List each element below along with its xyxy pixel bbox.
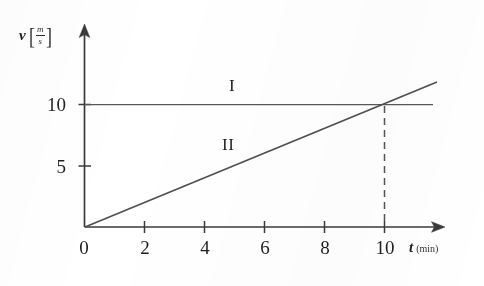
x-axis-unit: (min) xyxy=(416,244,438,254)
x-tick-label-0: 0 xyxy=(70,238,98,257)
unit-fraction: m s xyxy=(36,25,45,46)
unit-numerator: m xyxy=(37,25,44,35)
x-tick-label-2: 2 xyxy=(131,238,159,257)
x-tick-label-10: 10 xyxy=(369,238,401,257)
y-tick-label-5: 5 xyxy=(32,157,66,176)
y-axis-unit: [ m s ] xyxy=(28,25,53,46)
unit-denominator: s xyxy=(38,36,42,46)
bracket-close: ] xyxy=(46,27,52,45)
x-tick-label-6: 6 xyxy=(251,238,279,257)
x-axis-variable: t xyxy=(409,240,413,255)
velocity-time-graph-figure: v [ m s ] t (min) 10 5 0 2 4 6 8 10 I II xyxy=(0,0,484,286)
x-tick-label-8: 8 xyxy=(311,238,339,257)
bracket-open: [ xyxy=(29,27,35,45)
curve-label-i: I xyxy=(229,77,235,94)
y-axis-variable: v xyxy=(19,28,26,43)
y-axis xyxy=(79,24,90,227)
x-tick-label-4: 4 xyxy=(191,238,219,257)
x-axis-label: t (min) xyxy=(409,240,438,255)
curve-label-ii: II xyxy=(222,136,234,153)
y-axis-label: v [ m s ] xyxy=(19,25,53,46)
y-tick-label-10: 10 xyxy=(32,95,66,114)
